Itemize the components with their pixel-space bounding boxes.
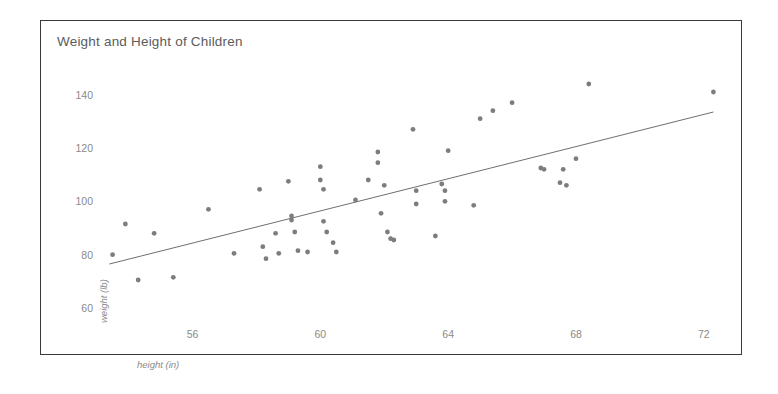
data-point	[353, 198, 358, 203]
data-point	[558, 180, 563, 185]
data-point	[321, 187, 326, 192]
data-point	[276, 251, 281, 256]
x-tick-label: 68	[570, 328, 582, 340]
data-point	[564, 183, 569, 188]
data-point	[443, 188, 448, 193]
data-point	[286, 179, 291, 184]
data-point	[574, 156, 579, 161]
data-point	[433, 234, 438, 239]
data-point	[305, 250, 310, 255]
x-axis-label: height (in)	[137, 359, 179, 370]
data-point	[318, 164, 323, 169]
data-point	[478, 116, 483, 121]
data-point	[414, 202, 419, 207]
data-point	[206, 207, 211, 212]
data-point	[331, 240, 336, 245]
data-point	[510, 100, 515, 105]
x-tick-label: 60	[314, 328, 326, 340]
data-point	[542, 167, 547, 172]
data-point	[136, 278, 141, 283]
data-point	[324, 230, 329, 235]
data-point	[391, 238, 396, 243]
data-point	[334, 250, 339, 255]
x-tick-label: 72	[698, 328, 710, 340]
y-tick-label: 100	[47, 195, 93, 207]
data-point	[171, 275, 176, 280]
data-point	[321, 219, 326, 224]
data-point	[711, 90, 716, 95]
data-point	[257, 187, 262, 192]
data-point	[385, 230, 390, 235]
data-point	[232, 251, 237, 256]
data-point	[414, 188, 419, 193]
data-point	[123, 222, 128, 227]
chart-frame: Weight and Height of Children weight (lb…	[40, 20, 742, 355]
x-tick-label: 64	[442, 328, 454, 340]
data-point	[273, 231, 278, 236]
scatter-plot	[41, 21, 743, 356]
data-point	[289, 218, 294, 223]
y-tick-label: 80	[47, 249, 93, 261]
data-point	[152, 231, 157, 236]
data-point	[366, 178, 371, 183]
data-point	[110, 252, 115, 257]
data-point	[375, 150, 380, 155]
data-point	[379, 211, 384, 216]
x-tick-label: 56	[187, 328, 199, 340]
data-point	[561, 167, 566, 172]
data-point	[490, 108, 495, 113]
data-point	[382, 183, 387, 188]
data-point	[292, 230, 297, 235]
data-point	[446, 148, 451, 153]
data-point	[471, 203, 476, 208]
y-tick-label: 140	[47, 89, 93, 101]
trend-line	[109, 112, 713, 264]
data-point	[375, 160, 380, 165]
data-point	[439, 182, 444, 187]
y-tick-label: 60	[47, 302, 93, 314]
data-point	[296, 248, 301, 253]
data-point	[586, 82, 591, 87]
data-point	[411, 127, 416, 132]
data-point	[318, 178, 323, 183]
data-point	[443, 199, 448, 204]
y-tick-label: 120	[47, 142, 93, 154]
data-point	[264, 256, 269, 261]
data-point	[260, 244, 265, 249]
